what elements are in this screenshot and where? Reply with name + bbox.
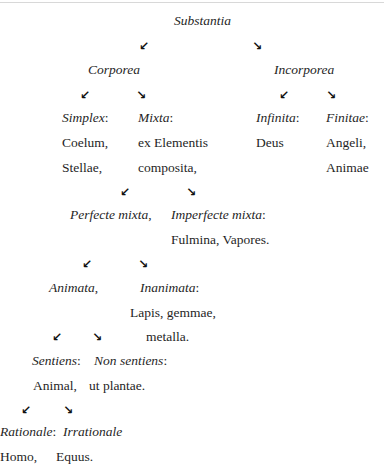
arrow-down-left-icon: ↙	[52, 331, 62, 343]
colon: :	[163, 353, 167, 368]
colon: :	[365, 110, 369, 125]
item-lapis-gemmae: Lapis, gemmae,	[130, 305, 216, 321]
colon: :	[105, 110, 109, 125]
colon: :	[296, 110, 300, 125]
node-non-sentiens: Non sentiens:	[94, 353, 167, 369]
item-coelum: Coelum,	[62, 135, 108, 151]
node-rationale: Rationale:	[0, 424, 56, 440]
item-animal: Animal,	[33, 378, 77, 394]
item-composita: composita,	[138, 160, 197, 176]
colon: :	[77, 353, 81, 368]
node-non-sentiens-label: Non sentiens	[94, 353, 163, 368]
node-sentiens: Sentiens:	[32, 353, 81, 369]
item-homo: Homo,	[0, 449, 37, 465]
node-mixta-label: Mixta	[138, 110, 170, 125]
comma: ,	[95, 280, 98, 295]
arrow-down-left-icon: ↙	[279, 89, 289, 101]
item-ex-elementis: ex Elementis	[138, 135, 208, 151]
node-irrationale: Irrationale	[63, 424, 122, 440]
node-animata: Animata,	[49, 280, 98, 296]
node-corporea: Corporea	[88, 62, 140, 78]
item-ut-plantae: ut plantae.	[89, 378, 145, 394]
node-incorporea: Incorporea	[274, 62, 334, 78]
node-infinita: Infinita:	[256, 110, 300, 126]
node-sentiens-label: Sentiens	[32, 353, 77, 368]
node-mixta: Mixta:	[138, 110, 173, 126]
arrow-down-right-icon: ↘	[252, 40, 262, 52]
item-deus: Deus	[256, 135, 284, 151]
node-inanimata: Inanimata:	[140, 280, 199, 296]
colon: :	[262, 207, 266, 222]
arrow-down-right-icon: ↘	[138, 258, 148, 270]
arrow-down-left-icon: ↙	[80, 89, 90, 101]
comma: ,	[148, 207, 151, 222]
item-stellae: Stellae,	[62, 160, 102, 176]
arrow-down-right-icon: ↘	[92, 331, 102, 343]
arrow-down-left-icon: ↙	[82, 258, 92, 270]
node-simplex-label: Simplex	[62, 110, 105, 125]
top-rule	[0, 2, 384, 3]
arrow-down-left-icon: ↙	[120, 186, 130, 198]
arrow-down-right-icon: ↘	[186, 186, 196, 198]
arrow-down-left-icon: ↙	[21, 404, 31, 416]
item-metalla: metalla.	[146, 329, 189, 345]
node-inanimata-label: Inanimata	[140, 280, 196, 295]
node-rationale-label: Rationale	[0, 424, 53, 439]
arrow-down-right-icon: ↘	[326, 89, 336, 101]
colon: :	[196, 280, 200, 295]
node-finitae: Finitae:	[326, 110, 369, 126]
node-simplex: Simplex:	[62, 110, 109, 126]
node-perfecte-mixta-label: Perfecte mixta	[70, 207, 148, 222]
arrow-down-left-icon: ↙	[139, 40, 149, 52]
item-animae: Animae	[326, 160, 369, 176]
node-infinita-label: Infinita	[256, 110, 296, 125]
node-animata-label: Animata	[49, 280, 95, 295]
node-finitae-label: Finitae	[326, 110, 365, 125]
arrow-down-right-icon: ↘	[136, 89, 146, 101]
node-perfecte-mixta: Perfecte mixta,	[70, 207, 152, 223]
arrow-down-right-icon: ↘	[63, 404, 73, 416]
item-angeli: Angeli,	[326, 135, 366, 151]
colon: :	[170, 110, 174, 125]
node-substantia: Substantia	[174, 13, 231, 29]
colon: :	[53, 424, 57, 439]
node-imperfecte-mixta-label: Imperfecte mixta	[171, 207, 262, 222]
item-equus: Equus.	[56, 449, 93, 465]
node-imperfecte-mixta: Imperfecte mixta:	[171, 207, 266, 223]
item-fulmina-vapores: Fulmina, Vapores.	[171, 232, 269, 248]
